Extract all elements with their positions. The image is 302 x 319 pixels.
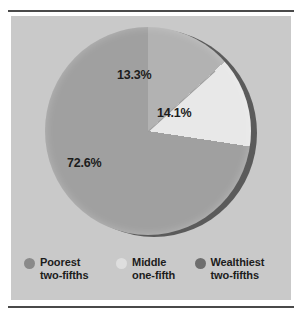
legend-label-line1: Poorest: [40, 256, 88, 269]
slice-label-poorest-two-fifths: 72.6%: [67, 156, 101, 170]
legend-item-wealthiest-two-fifths: Wealthiest two-fifths: [195, 256, 281, 281]
legend-label-line1: Wealthiest: [211, 256, 265, 269]
legend-swatch-poorest-two-fifths: [24, 258, 35, 269]
legend-item-poorest-two-fifths: Poorest two-fifths: [24, 256, 106, 281]
chart-legend: Poorest two-fifths Middle one-fifth Weal…: [24, 256, 280, 292]
slice-label-middle-one-fifth: 13.3%: [117, 68, 151, 82]
legend-label-line2: two-fifths: [40, 269, 88, 282]
chart-panel: 13.3% 14.1% 72.6% Poorest two-fifths Mid…: [11, 16, 291, 300]
legend-item-middle-one-fifth: Middle one-fifth: [116, 256, 184, 281]
top-divider-rule: [8, 10, 294, 12]
legend-swatch-middle-one-fifth: [116, 258, 127, 269]
legend-label-middle-one-fifth: Middle one-fifth: [132, 256, 175, 281]
pie-graphic: [45, 27, 257, 243]
slice-label-wealthiest-two-fifths: 14.1%: [157, 106, 191, 120]
legend-swatch-wealthiest-two-fifths: [195, 258, 206, 269]
legend-label-line2: two-fifths: [211, 269, 265, 282]
pie-chart-figure: 13.3% 14.1% 72.6% Poorest two-fifths Mid…: [0, 0, 302, 319]
legend-label-wealthiest-two-fifths: Wealthiest two-fifths: [211, 256, 265, 281]
pie-slice-divider: [45, 27, 251, 235]
legend-label-line1: Middle: [132, 256, 175, 269]
legend-label-poorest-two-fifths: Poorest two-fifths: [40, 256, 88, 281]
legend-label-line2: one-fifth: [132, 269, 175, 282]
bottom-divider-rule: [8, 306, 294, 308]
